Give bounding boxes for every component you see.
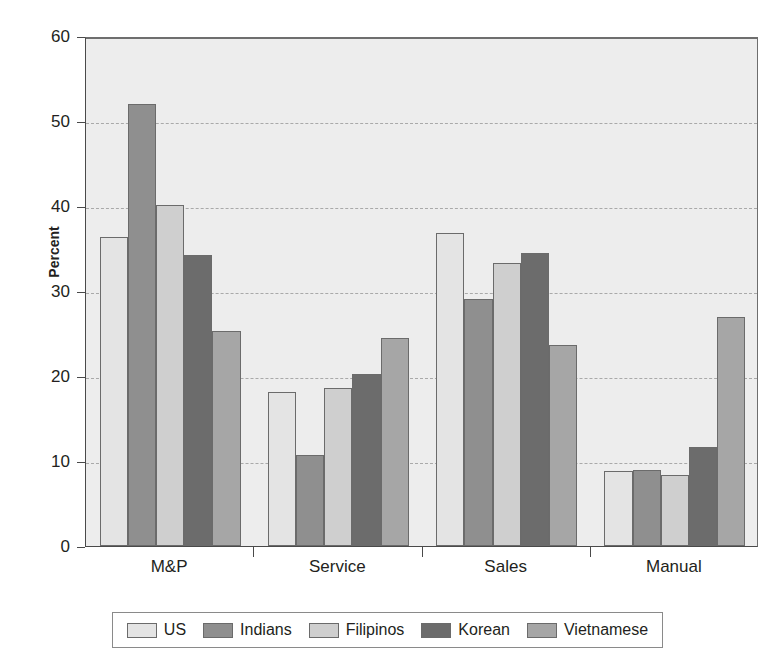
- chart-title-clipped: [0, 0, 774, 13]
- bar-sales-indians: [464, 299, 492, 546]
- y-tick-60: [77, 37, 85, 38]
- bar-manual-vietnamese: [717, 317, 745, 546]
- bar-service-indians: [296, 455, 324, 546]
- y-tick-10: [77, 462, 85, 463]
- bar-sales-korean: [521, 253, 549, 546]
- y-tick-label-30: 30: [0, 283, 70, 300]
- bar-m-p-indians: [128, 104, 156, 546]
- bars-layer: [86, 38, 757, 546]
- y-tick-50: [77, 122, 85, 123]
- legend-label-vietnamese: Vietnamese: [564, 621, 648, 639]
- bar-service-vietnamese: [381, 338, 409, 546]
- legend-item-filipinos[interactable]: Filipinos: [309, 621, 405, 639]
- legend-label-filipinos: Filipinos: [346, 621, 405, 639]
- y-tick-label-20: 20: [0, 368, 70, 385]
- legend-swatch-indians: [203, 623, 233, 638]
- y-tick-0: [77, 547, 85, 548]
- bar-service-us: [268, 392, 296, 546]
- bar-manual-filipinos: [661, 475, 689, 546]
- y-tick-20: [77, 377, 85, 378]
- bar-manual-indians: [633, 470, 661, 546]
- x-tick-2: [422, 547, 423, 557]
- legend-item-us[interactable]: US: [127, 621, 186, 639]
- legend-swatch-us: [127, 623, 157, 638]
- x-tick-1: [253, 547, 254, 557]
- bar-manual-korean: [689, 447, 717, 546]
- x-tick-3: [590, 547, 591, 557]
- bar-manual-us: [604, 471, 632, 546]
- y-tick-label-40: 40: [0, 198, 70, 215]
- bar-m-p-korean: [184, 255, 212, 546]
- x-tick-label-sales: Sales: [422, 558, 590, 575]
- y-tick-label-10: 10: [0, 453, 70, 470]
- legend-swatch-filipinos: [309, 623, 339, 638]
- x-tick-label-service: Service: [253, 558, 421, 575]
- bar-sales-filipinos: [493, 263, 521, 546]
- bar-service-korean: [352, 374, 380, 546]
- y-tick-30: [77, 292, 85, 293]
- legend-swatch-vietnamese: [527, 623, 557, 638]
- plot-area: [85, 37, 758, 547]
- y-tick-40: [77, 207, 85, 208]
- chart-legend: USIndiansFilipinosKoreanVietnamese: [112, 612, 663, 648]
- legend-item-vietnamese[interactable]: Vietnamese: [527, 621, 648, 639]
- bar-m-p-vietnamese: [212, 331, 240, 546]
- legend-swatch-korean: [421, 623, 451, 638]
- bar-m-p-filipinos: [156, 205, 184, 546]
- y-tick-label-60: 60: [0, 28, 70, 45]
- legend-label-korean: Korean: [458, 621, 510, 639]
- legend-item-korean[interactable]: Korean: [421, 621, 510, 639]
- x-tick-label-manual: Manual: [590, 558, 758, 575]
- y-tick-label-0: 0: [0, 538, 70, 555]
- legend-label-indians: Indians: [240, 621, 292, 639]
- x-tick-label-m-p: M&P: [85, 558, 253, 575]
- legend-item-indians[interactable]: Indians: [203, 621, 292, 639]
- bar-m-p-us: [100, 237, 128, 546]
- chart-figure: Percent 0102030405060 M&PServiceSalesMan…: [0, 0, 774, 666]
- bar-sales-us: [436, 233, 464, 546]
- bar-service-filipinos: [324, 388, 352, 546]
- y-tick-label-50: 50: [0, 113, 70, 130]
- legend-label-us: US: [164, 621, 186, 639]
- bar-sales-vietnamese: [549, 345, 577, 546]
